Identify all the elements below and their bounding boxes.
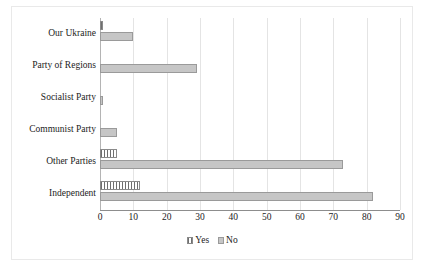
- x-axis-line: [100, 210, 400, 211]
- gridline-90: [400, 18, 401, 210]
- x-tick-label: 50: [262, 213, 272, 223]
- bar-group: [100, 178, 400, 210]
- category-label: Independent: [0, 189, 96, 199]
- category-label: Our Ukraine: [0, 29, 96, 39]
- bar-no: [100, 128, 117, 137]
- x-tick-label: 90: [395, 213, 405, 223]
- category-label: Party of Regions: [0, 61, 96, 71]
- bar-group: [100, 50, 400, 82]
- bar-group: [100, 18, 400, 50]
- x-tick-label: 80: [362, 213, 372, 223]
- bar-no: [100, 192, 373, 201]
- x-tick-label: 70: [329, 213, 339, 223]
- legend-swatch-yes-icon: [187, 237, 193, 244]
- x-axis-tick-labels: 0102030405060708090: [100, 213, 400, 229]
- x-tick-label: 30: [195, 213, 205, 223]
- bar-no: [100, 32, 133, 41]
- category-label: Communist Party: [0, 125, 96, 135]
- category-label: Other Parties: [0, 157, 96, 167]
- chart-legend: YesNo: [0, 236, 425, 246]
- bar-group: [100, 146, 400, 178]
- bar-group: [100, 82, 400, 114]
- legend-item-no[interactable]: No: [218, 236, 238, 246]
- bar-yes: [100, 21, 103, 30]
- x-tick-label: 60: [295, 213, 305, 223]
- legend-item-yes[interactable]: Yes: [187, 236, 209, 246]
- y-axis-category-labels: Our UkraineParty of RegionsSocialist Par…: [0, 18, 96, 210]
- legend-swatch-no-icon: [218, 237, 224, 244]
- x-tick-label: 10: [129, 213, 139, 223]
- category-label: Socialist Party: [0, 93, 96, 103]
- plot-area: [100, 18, 400, 210]
- x-tick-label: 40: [229, 213, 239, 223]
- legend-label: Yes: [195, 236, 209, 246]
- bar-no: [100, 64, 197, 73]
- bar-yes: [100, 181, 140, 190]
- bar-no: [100, 96, 103, 105]
- bar-no: [100, 160, 343, 169]
- x-tick-label: 0: [98, 213, 103, 223]
- chart-screenshot: Our UkraineParty of RegionsSocialist Par…: [0, 0, 425, 274]
- legend-label: No: [226, 236, 238, 246]
- bar-yes: [100, 149, 117, 158]
- x-tick-label: 20: [162, 213, 172, 223]
- bar-group: [100, 114, 400, 146]
